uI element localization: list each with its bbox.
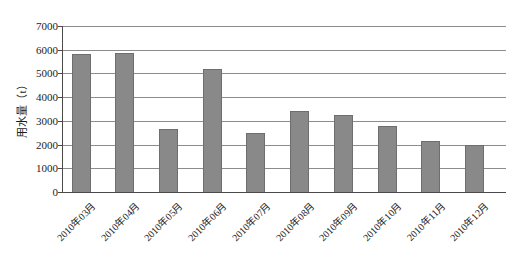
gridline-6000 — [62, 50, 506, 51]
gridline-7000 — [62, 26, 506, 27]
x-tick-label: 2010年07月 — [228, 198, 274, 244]
bar-2010年03月 — [72, 54, 91, 192]
bar-2010年05月 — [159, 129, 178, 192]
x-tick-label: 2010年11月 — [403, 198, 449, 244]
y-tick-label: 5000 — [0, 67, 58, 79]
x-tick-label: 2010年03月 — [53, 198, 99, 244]
bar-2010年06月 — [203, 69, 222, 192]
y-axis-title: 用水量（t） — [15, 39, 30, 179]
y-tick-label: 7000 — [0, 20, 58, 32]
x-tick-label: 2010年08月 — [271, 198, 317, 244]
x-axis-line — [62, 192, 506, 193]
bar-2010年04月 — [115, 53, 134, 192]
y-tick-label: 2000 — [0, 139, 58, 151]
bar-2010年08月 — [290, 111, 309, 192]
y-tick-label: 6000 — [0, 44, 58, 56]
x-tick-label: 2010年10月 — [359, 198, 405, 244]
y-tick-label: 4000 — [0, 91, 58, 103]
x-tick-label: 2010年04月 — [96, 198, 142, 244]
y-tick-label: 1000 — [0, 162, 58, 174]
y-tick-label: 3000 — [0, 115, 58, 127]
bar-2010年09月 — [334, 115, 353, 192]
x-tick-label: 2010年05月 — [140, 198, 186, 244]
y-axis-line — [62, 26, 63, 192]
bar-2010年10月 — [378, 126, 397, 192]
x-tick-label: 2010年12月 — [446, 198, 492, 244]
bar-2010年12月 — [465, 145, 484, 192]
bar-2010年07月 — [246, 133, 265, 192]
x-tick-label: 2010年09月 — [315, 198, 361, 244]
bar-2010年11月 — [421, 141, 440, 192]
y-tick-label: 0 — [0, 186, 58, 198]
water-usage-bar-chart: 用水量（t） 010002000300040005000600070002010… — [0, 0, 513, 266]
x-tick-label: 2010年06月 — [184, 198, 230, 244]
